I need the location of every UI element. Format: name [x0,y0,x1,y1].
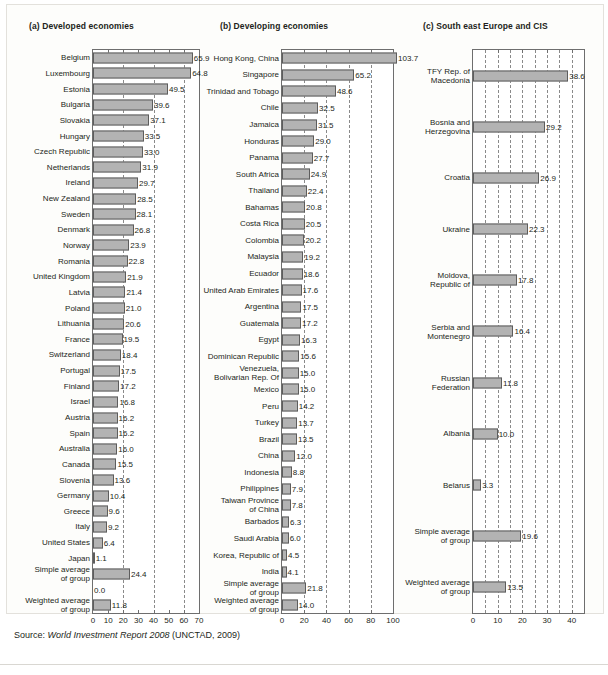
bar-value-label: 29.7 [139,178,155,187]
bar-row[interactable]: 29.0 [282,133,393,150]
bar-row[interactable]: 14.2 [282,398,393,415]
bar-row[interactable]: 4.5 [282,547,393,564]
bar [282,169,310,180]
bar-row[interactable]: 13.7 [282,414,393,431]
bar-value-label: 28.1 [137,210,153,219]
bar-row[interactable]: 26.9 [473,152,584,203]
bar [93,490,109,501]
category-label-line: Estonia [10,85,90,94]
category-label-line: Greece [10,507,90,516]
bar-row[interactable]: 38.6 [473,50,584,101]
bar-value-label: 19.2 [304,252,320,261]
bar-row[interactable]: 65.2 [282,67,393,84]
category-label: Netherlands [10,163,90,172]
bar-row[interactable]: 7.8 [282,497,393,514]
category-label-line: Latvia [10,288,90,297]
bar-value-label: 20.6 [125,319,141,328]
bar-value-label: 21.9 [127,272,143,281]
category-label-line: Simple average [400,527,470,536]
bar-row[interactable]: 20.8 [282,199,393,216]
category-label: Taiwan Provinceof China [184,496,279,514]
category-label-line: Norway [10,241,90,250]
bar-row[interactable]: 21.8 [282,580,393,597]
bar-row[interactable]: 29.2 [473,101,584,152]
panels-container: (a) Developed economies 65.964.849.539.6… [7,5,603,613]
panel-a-x-axis: 010203040506070 [92,616,200,628]
category-label-line: Canada [10,460,90,469]
bar-row[interactable]: 14.0 [282,596,393,613]
category-label-line: Weighted average [400,578,470,587]
bar [93,193,136,204]
bar-row[interactable]: 13.5 [282,431,393,448]
bar-row[interactable]: 20.5 [282,216,393,233]
category-label: New Zealand [10,194,90,203]
bar-row[interactable]: 20.2 [282,232,393,249]
bar-row[interactable]: 16.3 [282,332,393,349]
bar-value-label: 21.8 [307,584,323,593]
category-label: Luxembourg [10,69,90,78]
bar-row[interactable]: 19.6 [473,511,584,562]
category-label: South Africa [184,170,279,179]
bar-value-label: 15.0 [300,368,316,377]
bar-row[interactable]: 15.0 [282,365,393,382]
bar-value-label: 16.4 [514,327,530,336]
bar-value-label: 37.1 [150,116,166,125]
bar-row[interactable]: 11.8 [473,357,584,408]
bar [282,251,303,262]
category-label-line: Weighted average [184,596,279,605]
category-label: France [10,335,90,344]
category-label-line: Spain [10,429,90,438]
category-label-line: Moldova, [400,271,470,280]
bar-value-label: 22.4 [308,186,324,195]
bar-row[interactable]: 18.6 [282,265,393,282]
category-label: Romania [10,257,90,266]
bar [282,384,299,395]
bar-row[interactable]: 15.0 [282,381,393,398]
category-label: Moldova,Republic of [400,271,470,289]
category-label-line: Chile [184,103,279,112]
category-label: Trinidad and Tobago [184,87,279,96]
bar-value-label: 10.0 [499,429,515,438]
bar-row[interactable]: 6.3 [282,514,393,531]
category-label-line: of group [10,605,90,614]
category-label-line: Bolivarian Rep. Of [184,373,279,382]
bar-row[interactable]: 7.9 [282,481,393,498]
bar-row[interactable]: 17.2 [282,315,393,332]
bar [282,235,304,246]
bar-row[interactable]: 3.3 [473,459,584,510]
bar-value-label: 28.5 [137,194,153,203]
bar-value-label: 38.6 [569,71,585,80]
bar-row[interactable]: 103.7 [282,50,393,67]
bar-row[interactable]: 10.0 [473,408,584,459]
bar-row[interactable]: 17.6 [282,282,393,299]
category-label: Simple averageof group [400,527,470,545]
bar [93,209,136,220]
bar-row[interactable]: 31.5 [282,116,393,133]
bar-row[interactable]: 13.5 [473,562,584,613]
bar-row[interactable]: 22.4 [282,182,393,199]
bar-row[interactable]: 22.3 [473,204,584,255]
bar-row[interactable]: 27.7 [282,149,393,166]
bar [473,70,568,81]
bar-row[interactable]: 15.6 [282,348,393,365]
bar-row[interactable]: 8.8 [282,464,393,481]
bar-row[interactable]: 4.1 [282,563,393,580]
bar-row[interactable]: 32.5 [282,100,393,117]
bar-row[interactable]: 19.2 [282,249,393,266]
bar-row[interactable]: 12.0 [282,447,393,464]
bar-value-label: 6.3 [290,517,301,526]
category-label: Ecuador [184,269,279,278]
bar-value-label: 39.6 [154,100,170,109]
category-label: Chile [184,103,279,112]
bar [282,285,302,296]
bar-row[interactable]: 48.6 [282,83,393,100]
category-label: Ukraine [400,225,470,234]
bar-row[interactable]: 24.9 [282,166,393,183]
bar-value-label: 18.6 [304,269,320,278]
bar-value-label: 16.2 [119,413,135,422]
bar-row[interactable]: 16.4 [473,306,584,357]
bar-row[interactable]: 6.0 [282,530,393,547]
bar-row[interactable]: 17.8 [473,255,584,306]
bar-row[interactable]: 17.5 [282,298,393,315]
category-label: TFY Rep. ofMacedonia [400,67,470,85]
